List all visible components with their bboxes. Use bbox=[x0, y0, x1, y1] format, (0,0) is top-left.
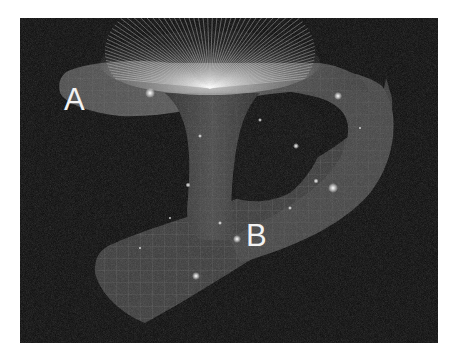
wormhole-illustration: A B bbox=[20, 18, 438, 343]
galaxy-dot bbox=[293, 143, 299, 149]
galaxy-dot bbox=[233, 235, 241, 243]
galaxy-dot bbox=[198, 134, 202, 138]
point-b-label: B bbox=[246, 220, 267, 251]
point-a-label: A bbox=[64, 84, 85, 115]
galaxy-dot bbox=[359, 127, 362, 130]
galaxy-dot bbox=[288, 206, 292, 210]
galaxy-dot bbox=[328, 183, 338, 193]
galaxy-dot bbox=[145, 88, 155, 98]
galaxy-dot bbox=[139, 247, 142, 250]
grain-overlay bbox=[20, 18, 438, 343]
spacetime-diagram bbox=[20, 18, 438, 343]
galaxy-dot bbox=[258, 118, 262, 122]
galaxy-dot bbox=[334, 92, 342, 100]
galaxy-dot bbox=[218, 221, 222, 225]
galaxy-dot bbox=[192, 272, 200, 280]
galaxy-dot bbox=[169, 217, 172, 220]
galaxy-dot bbox=[314, 179, 319, 184]
galaxy-dot bbox=[186, 183, 191, 188]
